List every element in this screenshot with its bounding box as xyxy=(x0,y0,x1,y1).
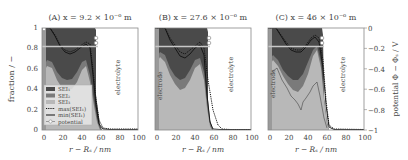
potential-marker xyxy=(94,36,98,40)
electrolyte-label: electrolyte xyxy=(114,60,122,95)
ytick-left: 0.6 xyxy=(27,65,39,73)
ytick-left: 1 xyxy=(34,24,38,32)
electrolyte-label: electrolyte xyxy=(227,57,235,92)
ytick-left: 0 xyxy=(34,126,38,134)
x-axis-label-c: r − Rₛ / nm xyxy=(295,145,337,154)
x-ticks-b: 0 20 40 60 80 100 xyxy=(155,134,259,142)
xtick: 100 xyxy=(358,134,371,142)
xtick: 100 xyxy=(245,134,258,142)
xtick: 0 xyxy=(268,134,272,142)
xtick: 20 xyxy=(59,134,68,142)
xtick: 100 xyxy=(132,134,145,142)
ytick-right: −0.6 xyxy=(368,86,386,94)
panel-b-title: (B) x = 27.6 × 10⁻⁶ m xyxy=(159,13,248,22)
electrolyte-label: electrolyte xyxy=(339,57,347,92)
ytick-right: −1 xyxy=(368,127,378,135)
ytick-right: −0.4 xyxy=(368,66,386,74)
x-ticks-a: 0 20 40 60 80 100 xyxy=(42,134,146,142)
legend-swatch-sei1 xyxy=(46,87,55,91)
y-axis-label-right: potential Φ − Φₛ / V xyxy=(391,41,400,116)
legend-label: potential xyxy=(58,119,83,126)
panel-c-title: (C) x = 46 × 10⁻⁶ m xyxy=(276,13,357,22)
potential-marker xyxy=(320,36,324,40)
x-ticks-c: 0 20 40 60 80 100 xyxy=(268,134,372,142)
x-axis-label-a: r − Rₛ / nm xyxy=(69,145,111,154)
ytick-right: −0.8 xyxy=(368,107,385,115)
potential-marker xyxy=(207,41,211,45)
y-axis-label-left: fraction / − xyxy=(7,56,16,102)
xtick: 0 xyxy=(42,134,46,142)
legend-swatch-sei2 xyxy=(46,94,55,98)
panel-b: (B) x = 27.6 × 10⁻⁶ m electrode electrol… xyxy=(155,13,259,154)
xtick: 20 xyxy=(172,134,181,142)
ytick-left: 0.2 xyxy=(27,106,38,114)
xtick: 80 xyxy=(229,134,238,142)
potential-marker xyxy=(94,41,98,45)
potential-marker xyxy=(320,41,324,45)
ytick-left: 0.8 xyxy=(27,44,38,52)
xtick: 40 xyxy=(78,134,87,142)
xtick: 60 xyxy=(97,134,106,142)
xtick: 20 xyxy=(285,134,294,142)
legend-label: min(SEI₁) xyxy=(58,112,85,118)
xtick: 80 xyxy=(116,134,125,142)
legend-swatch-sei3 xyxy=(46,100,55,104)
legend: SEI₁ SEI₂ SEI₃ max(SEI₁) min(SEI₁) poten… xyxy=(44,85,92,126)
panel-c: (C) x = 46 × 10⁻⁶ m electrode electrolyt… xyxy=(268,13,400,154)
xtick: 80 xyxy=(342,134,351,142)
xtick: 60 xyxy=(210,134,219,142)
y-ticks-right: 0 −0.2 −0.4 −0.6 −0.8 −1 xyxy=(364,25,386,135)
panel-a: (A) x = 9.2 × 10⁻⁶ m electrolyte xyxy=(42,13,146,154)
legend-label: SEI₁ xyxy=(58,86,70,92)
ytick-right: 0 xyxy=(368,25,372,33)
x-axis-label-b: r − Rₛ / nm xyxy=(182,145,224,154)
electrode-label: electrode xyxy=(156,71,163,100)
legend-label: SEI₂ xyxy=(58,93,70,99)
ytick-right: −0.2 xyxy=(368,45,385,53)
legend-label: max(SEI₁) xyxy=(58,106,86,112)
electrode-label: electrode xyxy=(269,69,276,98)
legend-label: SEI₃ xyxy=(58,99,70,105)
xtick: 60 xyxy=(323,134,332,142)
figure: fraction / − 0 0.2 0.4 0.6 0.8 1 (A) x =… xyxy=(0,0,408,160)
legend-potential-marker xyxy=(49,120,52,123)
xtick: 40 xyxy=(191,134,200,142)
ytick-left: 0.4 xyxy=(27,85,39,93)
y-ticks-left: 0 0.2 0.4 0.6 0.8 1 xyxy=(27,24,39,134)
xtick: 40 xyxy=(304,134,313,142)
xtick: 0 xyxy=(155,134,159,142)
panel-a-title: (A) x = 9.2 × 10⁻⁶ m xyxy=(48,13,132,22)
potential-marker xyxy=(207,36,211,40)
